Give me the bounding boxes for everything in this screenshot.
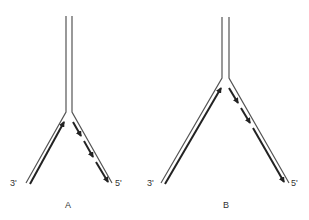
panel-b-3prime-label: 3'	[147, 178, 154, 188]
panel-a-label: A	[65, 200, 71, 210]
panel-a: 3' 5' A	[10, 16, 122, 210]
lagging-strand-fragments	[73, 122, 108, 182]
panel-b-5prime-label: 5'	[291, 178, 298, 188]
leading-strand-arrow	[30, 122, 64, 184]
panel-a-3prime-label: 3'	[10, 178, 17, 188]
diagram-canvas: 3' 5' A 3' 5' B	[0, 0, 309, 220]
panel-b-label: B	[223, 200, 229, 210]
panel-a-5prime-label: 5'	[115, 178, 122, 188]
lagging-strand-fragments	[229, 88, 284, 182]
panel-b: 3' 5' B	[147, 17, 298, 210]
parental-duplex	[26, 16, 112, 183]
leading-strand-arrow	[165, 88, 221, 184]
